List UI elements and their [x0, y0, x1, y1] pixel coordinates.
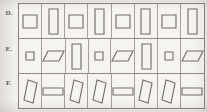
grid-cell[interactable]	[19, 4, 42, 38]
pattern-grid	[18, 3, 205, 109]
row-label-gutter: D. E. F.	[0, 0, 18, 112]
grid-cell[interactable]	[42, 39, 66, 73]
row-f	[19, 74, 204, 108]
tall-rectangle-figure	[48, 8, 59, 35]
grid-cell[interactable]	[181, 4, 204, 38]
flat-parallelogram-figure	[42, 50, 65, 62]
grid-cell[interactable]	[158, 39, 181, 73]
flat-parallelogram-figure	[111, 50, 134, 62]
tall-rectangle-figure	[187, 8, 198, 35]
wide-rectangle-figure	[112, 87, 134, 96]
tall-rectangle-figure	[94, 8, 105, 35]
grid-cell[interactable]	[112, 4, 135, 38]
small-square-figure	[94, 51, 104, 61]
row-label-e: E.	[0, 45, 18, 53]
grid-cell[interactable]	[42, 74, 65, 108]
row-e	[19, 39, 204, 74]
row-label-d: D.	[0, 9, 18, 17]
tall-parallelogram-figure	[161, 79, 176, 104]
grid-cell[interactable]	[42, 4, 65, 38]
square-figure	[68, 14, 84, 29]
grid-cell[interactable]	[88, 4, 111, 38]
square-figure	[115, 14, 131, 29]
grid-cell[interactable]	[111, 39, 135, 73]
row-label-f: F.	[0, 79, 18, 87]
grid-cell[interactable]	[181, 74, 204, 108]
wide-rectangle-figure	[181, 87, 203, 96]
grid-cell[interactable]	[181, 39, 204, 73]
grid-cell[interactable]	[19, 74, 42, 108]
grid-cell[interactable]	[66, 39, 89, 73]
grid-cell[interactable]	[88, 74, 111, 108]
grid-cell[interactable]	[112, 74, 135, 108]
grid-cell[interactable]	[89, 39, 112, 73]
tall-parallelogram-figure	[92, 79, 107, 104]
grid-cell[interactable]	[65, 74, 88, 108]
tall-rectangle-figure	[141, 43, 152, 70]
row-d	[19, 4, 204, 39]
square-figure	[161, 14, 177, 29]
grid-cell[interactable]	[158, 74, 181, 108]
tall-rectangle-figure	[71, 43, 82, 70]
tall-parallelogram-figure	[69, 79, 84, 104]
pattern-worksheet: D. E. F.	[0, 0, 207, 112]
square-figure	[22, 14, 38, 29]
grid-cell[interactable]	[65, 4, 88, 38]
tall-parallelogram-figure	[23, 79, 38, 104]
small-square-figure	[25, 51, 35, 61]
grid-cell[interactable]	[19, 39, 42, 73]
grid-cell[interactable]	[135, 39, 158, 73]
tall-parallelogram-figure	[138, 79, 153, 104]
grid-cell[interactable]	[135, 4, 158, 38]
grid-cell[interactable]	[135, 74, 158, 108]
grid-cell[interactable]	[158, 4, 181, 38]
flat-parallelogram-figure	[181, 50, 204, 62]
small-square-figure	[164, 51, 174, 61]
tall-rectangle-figure	[140, 8, 151, 35]
wide-rectangle-figure	[42, 87, 64, 96]
